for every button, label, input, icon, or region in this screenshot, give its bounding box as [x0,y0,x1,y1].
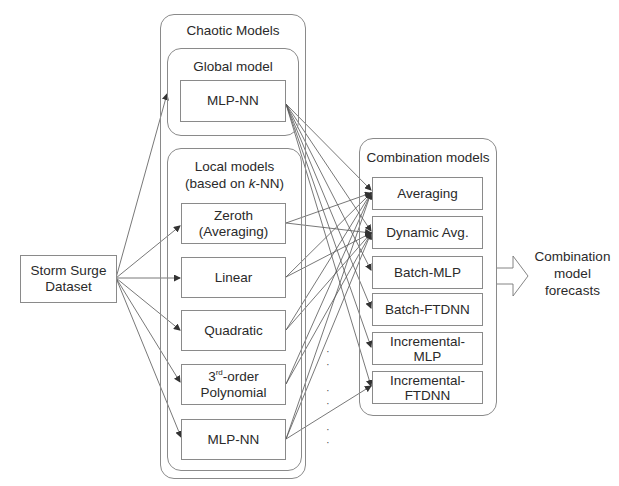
zeroth-sublabel: (Averaging) [199,224,269,240]
incremental-ftdnn-label-line2: FTDNN [405,388,451,403]
global-mlp-nn-label: MLP-NN [207,93,259,109]
local-quadratic-box: Quadratic [181,310,286,351]
connection-arrows [0,0,619,486]
averaging-label: Averaging [397,186,458,202]
combination-forecasts-label: Combination model forecasts [526,248,619,299]
local-models-title-line2: (based on k-NN) [167,175,302,192]
combo-batch-mlp-box: Batch-MLP [372,256,483,289]
combo-batch-ftdnn-box: Batch-FTDNN [372,293,483,326]
combination-models-title: Combination models [359,149,497,166]
combo-incremental-mlp-box: Incremental- MLP [372,332,483,365]
incremental-ftdnn-label-line1: Incremental- [390,373,465,388]
combo-averaging-box: Averaging [372,177,483,210]
ellipsis-dots: ······ [326,345,332,449]
dynamic-avg-label: Dynamic Avg. [386,225,468,241]
local-models-title-line1: Local models [167,158,302,175]
local-3rd-order-polynomial-box: 3rd-order Polynomial [181,364,286,405]
storm-surge-dataset-box: Storm Surge Dataset [20,255,117,303]
batch-ftdnn-label: Batch-FTDNN [385,302,470,318]
linear-label: Linear [215,270,253,286]
output-line3: forecasts [526,282,619,299]
polynomial-label-line1: 3rd-order [208,369,259,385]
combo-incremental-ftdnn-box: Incremental- FTDNN [372,371,483,404]
output-line1: Combination [526,248,619,265]
local-mlp-nn-box: MLP-NN [181,419,286,460]
global-mlp-nn-box: MLP-NN [180,80,286,122]
local-mlp-nn-label: MLP-NN [208,432,260,448]
polynomial-label-line2: Polynomial [200,385,266,401]
dataset-label-line1: Storm Surge [31,263,107,279]
local-zeroth-box: Zeroth (Averaging) [181,203,286,244]
dataset-label-line2: Dataset [45,279,92,295]
zeroth-label: Zeroth [214,208,253,224]
quadratic-label: Quadratic [204,323,263,339]
global-model-title: Global model [167,58,299,75]
output-line2: model [526,265,619,282]
combo-dynamic-avg-box: Dynamic Avg. [372,216,483,249]
chaotic-models-title: Chaotic Models [160,22,306,39]
local-models-title: Local models (based on k-NN) [167,158,302,192]
local-linear-box: Linear [181,257,286,298]
incremental-mlp-label-line1: Incremental- [390,334,465,349]
output-arrow [496,256,528,296]
batch-mlp-label: Batch-MLP [394,265,461,281]
incremental-mlp-label-line2: MLP [414,349,442,364]
